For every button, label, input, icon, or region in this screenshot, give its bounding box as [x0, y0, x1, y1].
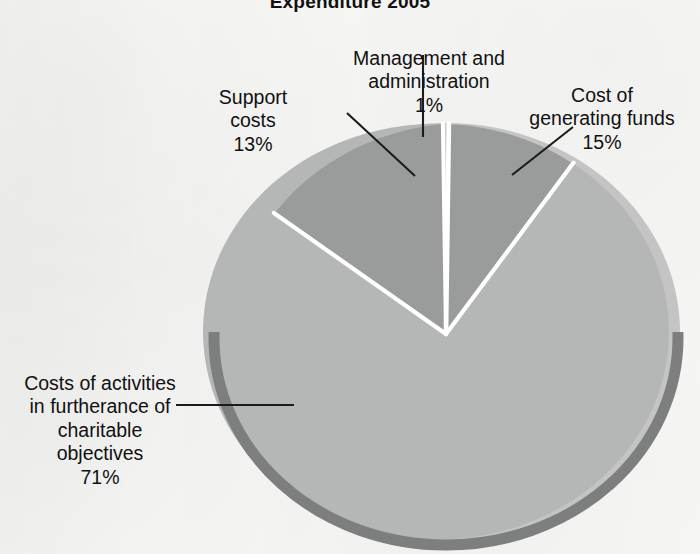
label-support-costs: Support costs13% — [178, 62, 328, 180]
label-charitable-objectives: Costs of activities in furtherance of ch… — [0, 348, 204, 513]
label-cost-of-generating-funds: Cost of generating funds15% — [506, 60, 698, 178]
label-generating-funds-percent: 15% — [506, 131, 698, 155]
pie-chart: Expenditure 2005 — [0, 0, 700, 554]
label-support-costs-name: Support costs — [219, 86, 287, 132]
label-support-costs-percent: 13% — [178, 133, 328, 157]
label-management-name: Management and administration — [353, 47, 505, 93]
label-charitable-objectives-percent: 71% — [0, 466, 204, 490]
label-generating-funds-name: Cost of generating funds — [529, 84, 674, 130]
label-charitable-objectives-name: Costs of activities in furtherance of ch… — [24, 372, 176, 465]
